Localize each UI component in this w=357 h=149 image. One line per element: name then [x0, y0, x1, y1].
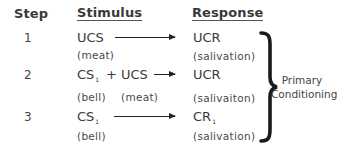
right-curly-brace-icon	[259, 31, 279, 143]
brace-label-line1: Primary	[275, 74, 329, 86]
step-number: 2	[24, 68, 32, 82]
response-label-salivaiton: (salivaiton)	[193, 92, 255, 104]
stimulus-plus-ucs: + UCS	[106, 67, 148, 82]
header-step: Step	[14, 6, 48, 21]
header-stimulus: Stimulus	[77, 6, 142, 21]
stimulus-label-meat: (meat)	[121, 91, 158, 103]
right-arrow-icon	[114, 116, 175, 117]
stimulus-label-bell: (bell)	[77, 91, 106, 103]
step-number: 1	[24, 31, 32, 45]
subscript: 1	[95, 76, 99, 83]
cr-text: CR	[193, 109, 211, 124]
response-ucr: UCR	[193, 30, 221, 45]
subscript: 1	[95, 118, 99, 125]
right-arrow-icon	[115, 37, 175, 38]
stimulus-cs1: CS1	[77, 67, 99, 83]
stimulus-label-bell: (bell)	[77, 130, 106, 142]
cs-text: CS	[77, 67, 94, 82]
step-number: 3	[24, 110, 32, 124]
right-arrow-icon	[154, 74, 175, 75]
stimulus-label-meat: (meat)	[77, 49, 114, 61]
cs-text: CS	[77, 109, 94, 124]
brace-label-line2: Conditioning	[271, 88, 333, 100]
stimulus-ucs: UCS	[77, 30, 104, 45]
stimulus-cs1: CS1	[77, 109, 99, 125]
subscript: 1	[212, 118, 216, 125]
response-cr1: CR1	[193, 109, 216, 125]
response-ucr: UCR	[193, 67, 221, 82]
response-label-salivation: (salivation)	[193, 130, 255, 142]
header-response: Response	[192, 6, 263, 21]
response-label-salivation: (salivation)	[193, 50, 255, 62]
